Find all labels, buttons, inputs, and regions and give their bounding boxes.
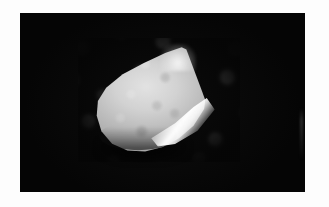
figure-root [0, 0, 329, 207]
plate-edge-artifact [300, 108, 303, 160]
photo-plate [20, 13, 305, 192]
specimen-object [92, 44, 210, 156]
specimen-apex-highlight [160, 44, 195, 71]
